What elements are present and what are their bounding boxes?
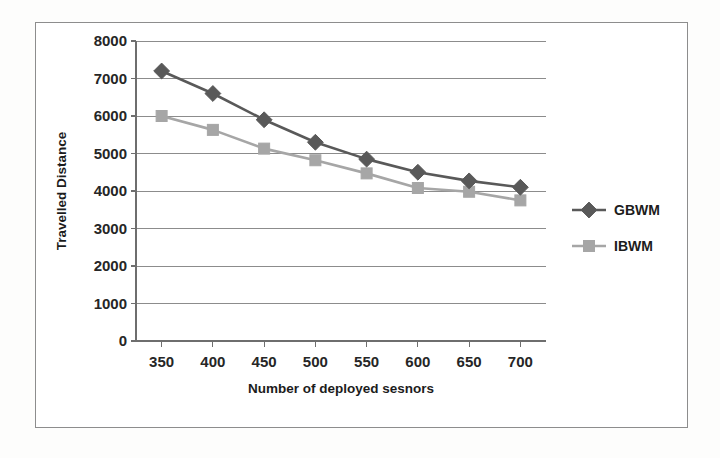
data-point-marker (154, 63, 170, 79)
series-ibwm (156, 111, 526, 206)
x-tick-label: 700 (508, 353, 533, 370)
y-tick-label: 3000 (94, 220, 127, 237)
y-axis-title: Travelled Distance (54, 131, 69, 250)
data-point-marker (515, 195, 526, 206)
chart-page: 0100020003000400050006000700080003504004… (0, 0, 720, 458)
data-point-marker (259, 143, 270, 154)
y-tick-label: 8000 (94, 32, 127, 49)
data-point-marker (207, 124, 218, 135)
y-tick-label: 6000 (94, 107, 127, 124)
legend-item-ibwm[interactable]: IBWM (572, 238, 653, 254)
y-tick-label: 5000 (94, 145, 127, 162)
x-tick-label: 500 (303, 353, 328, 370)
y-gridlines: 010002000300040005000600070008000 (94, 32, 546, 349)
y-tick-label: 2000 (94, 257, 127, 274)
y-tick-label: 7000 (94, 70, 127, 87)
y-tick-label: 1000 (94, 295, 127, 312)
data-point-marker (581, 202, 597, 218)
data-point-marker (156, 111, 167, 122)
legend: GBWMIBWM (572, 202, 660, 254)
x-ticks: 350400450500550600650700 (149, 341, 533, 370)
data-point-marker (410, 164, 426, 180)
data-point-marker (310, 155, 321, 166)
y-tick-label: 0 (119, 332, 127, 349)
legend-label: IBWM (614, 238, 653, 254)
data-point-marker (361, 168, 372, 179)
x-tick-label: 350 (149, 353, 174, 370)
data-point-marker (512, 179, 528, 195)
data-point-marker (307, 134, 323, 150)
data-point-marker (584, 241, 595, 252)
y-tick-label: 4000 (94, 182, 127, 199)
x-axis-title: Number of deployed sesnors (248, 381, 434, 396)
legend-item-gbwm[interactable]: GBWM (572, 202, 660, 218)
x-tick-label: 450 (252, 353, 277, 370)
legend-label: GBWM (614, 202, 660, 218)
line-chart: 0100020003000400050006000700080003504004… (0, 0, 720, 458)
data-point-marker (205, 86, 221, 102)
x-tick-label: 650 (457, 353, 482, 370)
x-tick-label: 550 (354, 353, 379, 370)
data-point-marker (412, 183, 423, 194)
x-tick-label: 400 (200, 353, 225, 370)
x-tick-label: 600 (405, 353, 430, 370)
data-point-marker (256, 112, 272, 128)
